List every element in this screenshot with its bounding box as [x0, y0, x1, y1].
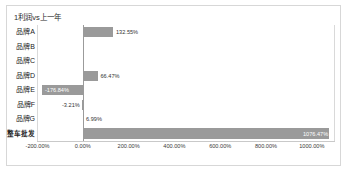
bar-row: 132.55% [37, 25, 335, 40]
bar-row: -176.84% [37, 83, 335, 98]
x-tick-label: -200.00% [26, 143, 50, 149]
x-axis-ticks: -200.00% 0.00% 200.00% 400.00% 600.00% 8… [37, 143, 335, 155]
bar-row: 1076.47% [37, 127, 335, 142]
bar-row: 66.47% [37, 69, 335, 84]
bar-series: 132.55% 66.47% -176.84% [37, 25, 335, 141]
category-label: 品牌A [16, 25, 35, 40]
category-label: 品牌C [16, 54, 35, 69]
bar-value-label: 132.55% [116, 27, 138, 37]
chart-title: 1利润vs上一年 [14, 11, 61, 22]
category-label: 品牌G [16, 112, 35, 127]
bar-brand-g[interactable] [83, 114, 85, 124]
x-tick-label: 1000.00% [299, 143, 324, 149]
category-label-total: 整车批发 [7, 127, 35, 142]
bar-brand-f[interactable] [82, 100, 83, 110]
bar-row: -3.21% [37, 98, 335, 113]
bar-value-label: 6.99% [86, 114, 102, 124]
x-tick-label: 0.00% [75, 143, 91, 149]
category-axis: 品牌A 品牌B 品牌C 品牌D 品牌E 品牌F 品牌G 整车批发 [7, 25, 37, 141]
bar-brand-d[interactable] [83, 71, 98, 81]
bar-row: 6.99% [37, 112, 335, 127]
bar-value-label: 66.47% [101, 71, 120, 81]
x-tick-label: 200.00% [118, 143, 140, 149]
x-axis-line [37, 141, 335, 142]
x-tick-label: 800.00% [255, 143, 277, 149]
category-label: 品牌B [16, 40, 35, 55]
category-label: 品牌F [17, 98, 35, 113]
bar-row [37, 54, 335, 69]
bar-row [37, 40, 335, 55]
bar-value-label: -3.21% [62, 100, 80, 110]
bar-value-label: 1076.47% [303, 129, 328, 139]
x-tick-label: 400.00% [163, 143, 185, 149]
bar-brand-a[interactable] [83, 27, 113, 37]
bar-total-wholesale[interactable] [83, 128, 330, 139]
plot-area: 132.55% 66.47% -176.84% [37, 25, 335, 141]
x-tick-label: 600.00% [209, 143, 231, 149]
chart-card: 1利润vs上一年 品牌A 品牌B 品牌C 品牌D 品牌E 品牌F 品牌G 整车批… [6, 5, 341, 166]
bar-value-label: -176.84% [45, 85, 69, 95]
category-label: 品牌E [16, 83, 35, 98]
category-label: 品牌D [16, 69, 35, 84]
